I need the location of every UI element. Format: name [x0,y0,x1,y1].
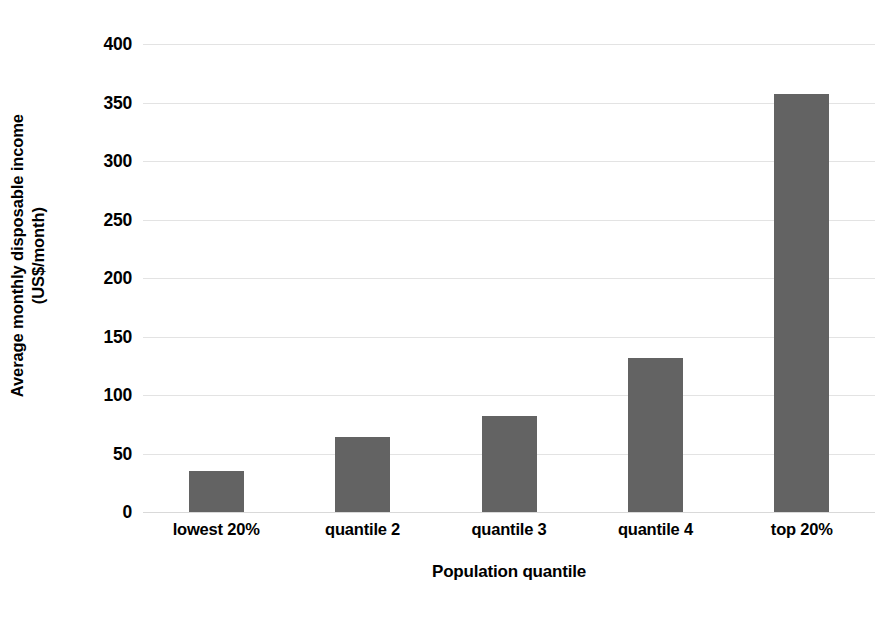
plot-area [143,44,875,512]
x-axis-tick-label: quantile 2 [325,520,400,539]
bar[interactable] [482,416,537,512]
gridline [143,337,875,338]
y-axis-title-line2: (US$/month) [28,114,49,397]
x-axis-tick-label: quantile 4 [618,520,693,539]
y-axis-tick-label: 0 [122,502,132,523]
y-axis-tick-label: 150 [103,326,132,347]
x-axis-title: Population quantile [143,562,875,582]
y-axis-tick-label: 400 [103,34,132,55]
x-axis-tick-labels: lowest 20%quantile 2quantile 3quantile 4… [143,520,875,550]
y-axis-tick-labels: 400350300250200150100500 [58,44,132,512]
gridline [143,220,875,221]
gridline [143,44,875,45]
y-axis-tick-label: 50 [113,443,132,464]
x-axis-tick-label: lowest 20% [173,520,260,539]
x-axis-tick-label: top 20% [771,520,833,539]
y-axis-tick-label: 250 [103,209,132,230]
gridline [143,161,875,162]
y-axis-tick-label: 200 [103,268,132,289]
y-axis-title: Average monthly disposable income (US$/m… [0,0,56,512]
y-axis-tick-label: 100 [103,385,132,406]
gridline [143,512,875,513]
y-axis-title-line1: Average monthly disposable income [8,114,26,397]
y-axis-tick-label: 300 [103,151,132,172]
y-axis-tick-label: 350 [103,92,132,113]
bar-chart-figure: Average monthly disposable income (US$/m… [0,0,883,621]
gridline [143,395,875,396]
gridline [143,278,875,279]
x-axis-tick-label: quantile 3 [471,520,546,539]
bar[interactable] [628,358,683,512]
bar[interactable] [774,94,829,512]
bar[interactable] [335,437,390,512]
bar[interactable] [189,471,244,512]
gridline [143,103,875,104]
